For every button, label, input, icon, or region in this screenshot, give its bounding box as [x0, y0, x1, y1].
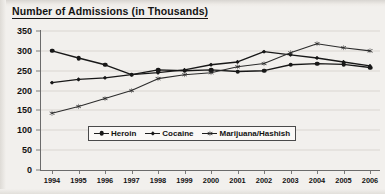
legend-label: Heroin — [111, 129, 136, 138]
data-point — [50, 49, 55, 54]
legend-label: Marijuana/Hashish — [219, 129, 290, 138]
data-point — [235, 69, 240, 74]
legend-marker-circle-icon — [99, 131, 104, 136]
legend-item-marijuana-hashish[interactable]: Marijuana/Hashish — [202, 129, 290, 138]
chart-legend[interactable]: HeroinCocaineMarijuana/Hashish — [88, 126, 296, 141]
legend-marker-star-icon — [207, 131, 213, 137]
legend-swatch — [94, 133, 109, 134]
legend-label: Cocaine — [162, 129, 193, 138]
legend-swatch — [145, 133, 160, 134]
data-point — [262, 68, 267, 73]
series-lines — [0, 0, 385, 194]
chart-plot-area: 350300250200150100500 199419951996199719… — [0, 0, 385, 194]
legend-swatch — [202, 133, 217, 134]
legend-item-cocaine[interactable]: Cocaine — [145, 129, 193, 138]
legend-item-heroin[interactable]: Heroin — [94, 129, 136, 138]
legend-marker-diamond-icon — [151, 131, 155, 135]
data-point — [103, 62, 108, 67]
data-point — [76, 56, 81, 61]
data-point — [315, 61, 320, 66]
data-point — [288, 62, 293, 67]
